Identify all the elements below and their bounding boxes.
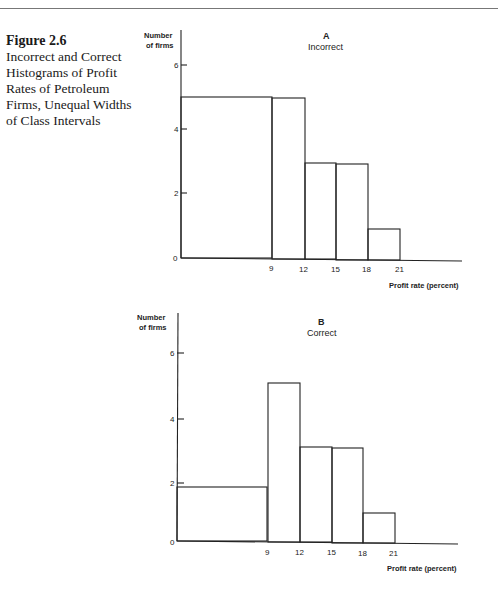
x-tick-label: 15 — [331, 265, 340, 274]
y-tick-label: 6 — [174, 61, 179, 70]
y-tick-label: 0 — [170, 538, 175, 547]
x-tick-label: 12 — [299, 265, 308, 274]
chart-a — [181, 30, 462, 261]
x-tick-label: 18 — [358, 549, 367, 558]
x-tick-label: 9 — [265, 548, 270, 557]
y-tick-label: 6 — [170, 349, 175, 358]
x-axis-label: Profit rate (percent) — [387, 564, 457, 573]
y-axis-label: Number — [144, 31, 172, 40]
bar-18-21 — [368, 229, 400, 260]
chart-b — [177, 313, 458, 544]
bar-15-18 — [332, 448, 363, 543]
x-tick-label: 21 — [395, 265, 404, 274]
panel-title: Incorrect — [308, 42, 344, 52]
x-tick-label: 21 — [389, 549, 398, 558]
chart-b-labels: Number of firms 6 4 2 0 9 12 15 18 21 Pr… — [137, 313, 457, 573]
bar-0-9 — [177, 487, 267, 541]
bar-9-12 — [268, 383, 300, 542]
bar-15-18 — [336, 164, 368, 260]
bar-12-15 — [300, 447, 332, 542]
y-axis-label: of firms — [146, 41, 174, 50]
y-tick-label: 2 — [174, 189, 179, 198]
histograms: Number of firms 6 4 2 0 9 12 15 18 21 Pr… — [0, 0, 498, 594]
y-tick-label: 4 — [174, 125, 179, 134]
panel-label: B — [318, 317, 325, 327]
y-tick-label: 2 — [170, 479, 175, 488]
y-axis-label: Number — [137, 313, 165, 322]
bar-18-21 — [363, 513, 395, 543]
x-tick-label: 18 — [362, 265, 371, 274]
y-tick-label: 4 — [170, 415, 175, 424]
bar-0-9 — [181, 97, 272, 258]
chart-a-labels: Number of firms 6 4 2 0 9 12 15 18 21 Pr… — [144, 31, 459, 290]
panel-title: Correct — [307, 328, 337, 338]
x-tick-label: 9 — [269, 264, 274, 273]
x-tick-label: 12 — [295, 548, 304, 557]
x-axis-label: Profit rate (percent) — [389, 281, 459, 290]
bar-9-12 — [272, 98, 305, 259]
y-tick-label: 0 — [173, 254, 178, 263]
panel-label: A — [323, 31, 330, 41]
y-axis-label: of firms — [139, 323, 167, 332]
x-tick-label: 15 — [327, 548, 336, 557]
bar-12-15 — [305, 163, 336, 259]
